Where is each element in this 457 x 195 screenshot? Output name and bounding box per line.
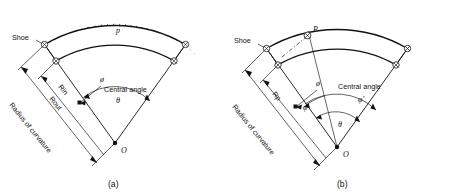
central-angle-label-a: Central angle [104,85,147,94]
phi-leader-a [80,86,101,103]
node-inner-left-a [53,58,59,64]
radius-label-a: Radius of curvature [7,101,53,155]
figure-container: Shoe p Rin Rout Radius of curvature Cent… [0,0,457,195]
dim-line-radius-a [21,67,97,163]
inner-arc-a [56,45,174,61]
shoe-leader-b [258,44,264,48]
theta-label-b: θ [338,120,342,129]
central-angle-label-b: Central angle [338,82,381,91]
panel-b: Shoe P Rp Radius of curvature Central an… [230,25,410,170]
shoe-leader-a [36,40,42,44]
angle-arrow-left-a [84,94,91,100]
dim-arrow-rp-top-b [263,80,270,87]
origin-dot-a [113,141,117,145]
dim-arrow-bottom-b [313,159,320,166]
phi-origin-square-b [294,105,298,109]
phi-prime-arrow-b [371,104,377,111]
outer-arc-a [45,25,186,44]
caption-b: (b) [337,179,348,189]
phi-lower-label-b: φ [303,103,308,112]
phi-origin-square-a [78,101,82,105]
witness-outer-b [242,49,267,74]
caption-a: (a) [108,179,119,189]
node-outer-right-a [182,41,188,47]
witness-outer-a [18,45,45,71]
dim-arrow-bottom-a [90,156,97,163]
node-outer-left-a [41,41,47,47]
witness-origin-b [314,147,337,170]
shoe-label-a: Shoe [12,33,29,42]
node-inner-right-a [171,58,177,64]
shoe-band-a [30,20,224,80]
radius-through-p-b [308,31,337,147]
radius-label-b: Radius of curvature [230,103,276,157]
phi-label-a: ø [99,75,105,84]
origin-label-b: O [343,150,349,159]
node-inner-left-b [275,62,281,68]
origin-dot-b [335,145,339,149]
inner-arc-b [278,49,396,65]
shoe-label-b: Shoe [234,36,251,45]
phi-prime-label-b: φ′ [358,95,364,104]
node-point-p-b [304,32,311,39]
witness-inner-b [260,65,278,83]
dim-line-radius-b [245,70,320,166]
dim-arrow-rin-top-a [41,76,48,83]
node-inner-right-b [393,62,399,68]
witness-inner-a [38,61,56,79]
point-p-label-b: P [312,25,318,34]
dim-arrow-top-b [245,70,252,77]
r-inner-label-a: Rin [56,83,70,97]
origin-label-a: O [121,146,127,155]
hatching-a [30,20,224,80]
corner-nodes-b [263,32,410,68]
dim-line-rin-a [41,76,104,155]
node-outer-left-b [263,45,269,51]
node-outer-right-b [404,45,410,51]
pressure-label-a: p [115,26,120,35]
theta-label-a: θ [116,96,120,105]
panel-a: Shoe p Rin Rout Radius of curvature Cent… [7,20,224,166]
outer-arc-b [267,29,408,48]
dim-arrow-top-a [21,67,28,74]
diagram-canvas: Shoe p Rin Rout Radius of curvature Cent… [0,0,457,195]
